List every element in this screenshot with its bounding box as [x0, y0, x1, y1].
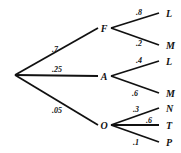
- edge-root-to-a: [15, 75, 98, 76]
- node-o: O: [100, 120, 107, 131]
- leaf-o-n: N: [165, 103, 174, 114]
- prob-label-o-t: .6: [146, 116, 152, 125]
- prob-label-a: .25: [52, 65, 62, 74]
- edge-f-to-m: [111, 28, 159, 45]
- prob-label-o-n: .3: [133, 105, 139, 114]
- edge-root-to-o: [15, 75, 98, 125]
- edge-a-to-l: [111, 61, 159, 76]
- prob-label-o-p: .1: [133, 138, 139, 147]
- edge-f-to-l: [111, 13, 159, 28]
- prob-label-a-m: .6: [132, 89, 138, 98]
- node-f: F: [100, 23, 108, 34]
- prob-label-f-m: .2: [136, 39, 142, 48]
- leaf-f-m: M: [165, 40, 176, 51]
- leaf-f-l: L: [165, 8, 172, 19]
- node-a: A: [100, 71, 108, 82]
- prob-label-o: .05: [52, 106, 62, 115]
- tree-edges: [15, 13, 159, 142]
- leaf-o-p: P: [166, 137, 173, 148]
- prob-label-f-l: .8: [136, 8, 142, 17]
- probability-tree-diagram: F.7A.25O.05L.8M.2L.4M.6N.3T.6P.1: [0, 0, 181, 153]
- prob-label-f: .7: [52, 45, 59, 54]
- leaf-o-t: T: [166, 120, 173, 131]
- leaf-a-l: L: [165, 56, 172, 67]
- leaf-a-m: M: [165, 88, 176, 99]
- prob-label-a-l: .4: [136, 56, 142, 65]
